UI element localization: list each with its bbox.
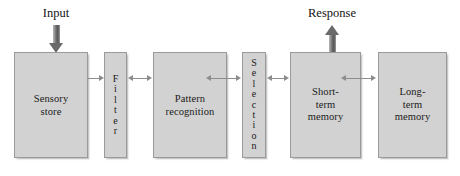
arrowhead-into-stm-left [284, 75, 289, 81]
arrowhead-into-pattern-left [147, 75, 152, 81]
stage-label-filter: F i l t e r [105, 74, 126, 136]
stage-label-sensory-store: Sensory store [15, 93, 87, 118]
input-arrow-shaft [53, 25, 60, 44]
stage-box-long-term-memory[interactable]: Long- term memory [378, 52, 447, 158]
stage-label-short-term-memory: Short- term memory [291, 86, 360, 124]
input-arrow [49, 25, 64, 53]
arrowhead-into-filter-left [99, 75, 104, 81]
response-arrow-shaft [329, 34, 336, 53]
response-arrow-head [325, 25, 339, 35]
stage-box-filter[interactable]: F i l t e r [104, 52, 127, 158]
connector-stm-to-ltm [346, 78, 372, 79]
arrowhead-into-ltm-left [371, 75, 376, 81]
response-caption: Response [294, 6, 370, 21]
connector-pattern-to-selection [211, 78, 237, 79]
stage-label-pattern-recognition: Pattern recognition [154, 93, 226, 118]
response-arrow [325, 25, 340, 53]
input-caption: Input [30, 6, 82, 21]
stage-box-sensory-store[interactable]: Sensory store [14, 52, 88, 158]
stage-label-selection: S e l e c t i o n [243, 58, 265, 152]
connector-filter-to-pattern [133, 78, 148, 79]
stage-box-pattern-recognition[interactable]: Pattern recognition [153, 52, 227, 158]
diagram-canvas: Input Response Sensory store F i l t e r… [0, 0, 460, 176]
arrowhead-into-selection-left [236, 75, 241, 81]
stage-box-short-term-memory[interactable]: Short- term memory [290, 52, 361, 158]
stage-label-long-term-memory: Long- term memory [379, 86, 446, 124]
stage-box-selection[interactable]: S e l e c t i o n [242, 52, 266, 158]
